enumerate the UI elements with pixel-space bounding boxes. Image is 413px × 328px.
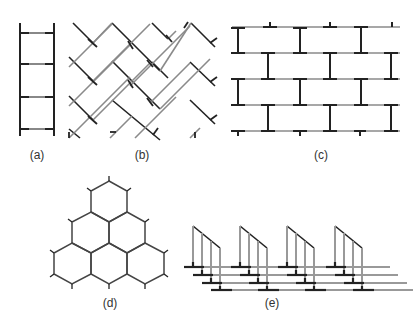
label-c: (c) [306, 148, 336, 162]
figure-canvas [0, 0, 413, 328]
label-b: (b) [127, 148, 157, 162]
panel-c-brick-wall [231, 22, 400, 136]
label-e: (e) [257, 296, 287, 310]
label-d: (d) [95, 296, 125, 310]
label-a: (a) [22, 148, 52, 162]
panel-d-honeycomb [50, 176, 168, 289]
panel-b-herringbone [69, 22, 217, 140]
panel-e-stacked-ladders [184, 226, 413, 290]
panel-a-ladder [20, 23, 54, 136]
